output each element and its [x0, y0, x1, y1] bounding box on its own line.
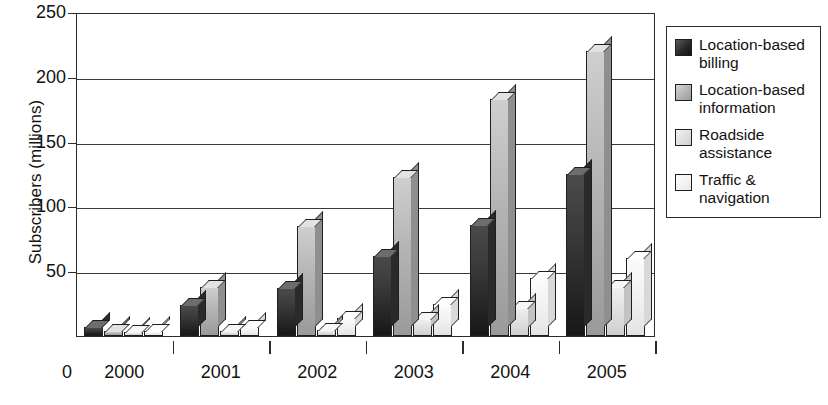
- bar-side: [508, 84, 516, 327]
- plot-area: [76, 13, 655, 337]
- x-tick-mark: [655, 341, 657, 354]
- bar-group-2002: [277, 14, 356, 336]
- y-tick-label: 100: [20, 197, 66, 215]
- bar-face: [85, 328, 102, 335]
- x-tick-mark: [269, 341, 271, 354]
- bar-face: [278, 289, 295, 335]
- bar-face: [221, 332, 238, 335]
- x-tick-label-2003: 2003: [369, 362, 459, 383]
- bar-side: [315, 211, 323, 327]
- legend-swatch-icon: [675, 84, 692, 101]
- bar-side: [451, 289, 459, 327]
- bar-face: [318, 331, 335, 335]
- y-tick-label: 150: [20, 133, 66, 151]
- x-tick-mark: [559, 341, 561, 354]
- bar-side: [604, 36, 612, 327]
- bar: [470, 225, 489, 336]
- legend-item-label: Traffic & navigation: [699, 171, 814, 207]
- x-tick-label-2004: 2004: [465, 362, 555, 383]
- chart-legend: Location-based billingLocation-based inf…: [666, 26, 821, 218]
- legend-item: Location-based information: [675, 81, 814, 117]
- legend-swatch-icon: [675, 174, 692, 191]
- y-tick-label: 200: [20, 68, 66, 86]
- bar: [277, 288, 296, 336]
- bar-face: [374, 257, 391, 335]
- bar: [220, 331, 239, 336]
- legend-item: Traffic & navigation: [675, 171, 814, 207]
- legend-item-label: Roadside assistance: [699, 126, 814, 162]
- bar-side: [411, 162, 419, 327]
- bar: [317, 330, 336, 336]
- bar-side: [488, 210, 496, 327]
- y-tick-label: 50: [20, 262, 66, 280]
- x-tick-label-2001: 2001: [176, 362, 266, 383]
- bar: [144, 331, 163, 336]
- x-tick-mark: [366, 341, 368, 354]
- bar: [180, 305, 199, 336]
- bar: [84, 327, 103, 336]
- legend-item-label: Location-based information: [699, 81, 814, 117]
- bar: [566, 174, 585, 336]
- legend-item-label: Location-based billing: [699, 36, 814, 72]
- legend-item: Roadside assistance: [675, 126, 814, 162]
- legend-swatch-icon: [675, 129, 692, 146]
- x-axis-origin-label: 0: [52, 362, 82, 383]
- bar-side: [584, 159, 592, 327]
- y-axis-ticklabels: 50100150200250: [14, 0, 66, 405]
- y-tick-mark: [68, 78, 76, 79]
- bar-face: [181, 306, 198, 335]
- bar-face: [145, 332, 162, 335]
- bar-face: [125, 333, 142, 335]
- bar-group-2003: [373, 14, 452, 336]
- bar-face: [414, 320, 431, 335]
- y-tick-mark: [68, 143, 76, 144]
- bar-chart: Subscribers (millions) 50100150200250 02…: [0, 0, 828, 405]
- bar-face: [567, 175, 584, 335]
- bar-group-2004: [470, 14, 549, 336]
- legend-swatch-icon: [675, 39, 692, 56]
- bar: [104, 331, 123, 336]
- bar-group-2005: [566, 14, 645, 336]
- x-tick-mark: [173, 341, 175, 354]
- bar: [240, 327, 259, 336]
- x-tick-label-2000: 2000: [79, 362, 169, 383]
- bar-group-2000: [84, 14, 163, 336]
- x-tick-label-2002: 2002: [272, 362, 362, 383]
- bar-top: [85, 320, 110, 328]
- bar-face: [241, 328, 258, 335]
- bar-face: [105, 332, 122, 335]
- y-tick-mark: [68, 272, 76, 273]
- bar-group-2001: [180, 14, 259, 336]
- bar: [373, 256, 392, 336]
- bar: [124, 332, 143, 336]
- x-tick-label-2005: 2005: [562, 362, 652, 383]
- x-tick-mark: [462, 341, 464, 354]
- y-tick-mark: [68, 13, 76, 14]
- legend-item: Location-based billing: [675, 36, 814, 72]
- y-tick-label: 250: [20, 3, 66, 21]
- bar-face: [471, 226, 488, 335]
- y-tick-mark: [68, 207, 76, 208]
